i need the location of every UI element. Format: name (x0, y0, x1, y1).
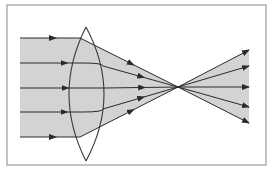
lens-ray-diagram (0, 0, 275, 174)
ray-arrow-icon (105, 87, 145, 88)
